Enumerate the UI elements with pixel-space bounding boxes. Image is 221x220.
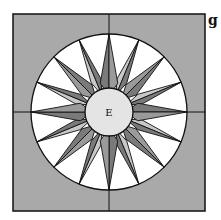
figure-label: g: [208, 12, 218, 28]
mariners-compass-block: E: [0, 0, 221, 220]
center-label: E: [105, 107, 112, 118]
